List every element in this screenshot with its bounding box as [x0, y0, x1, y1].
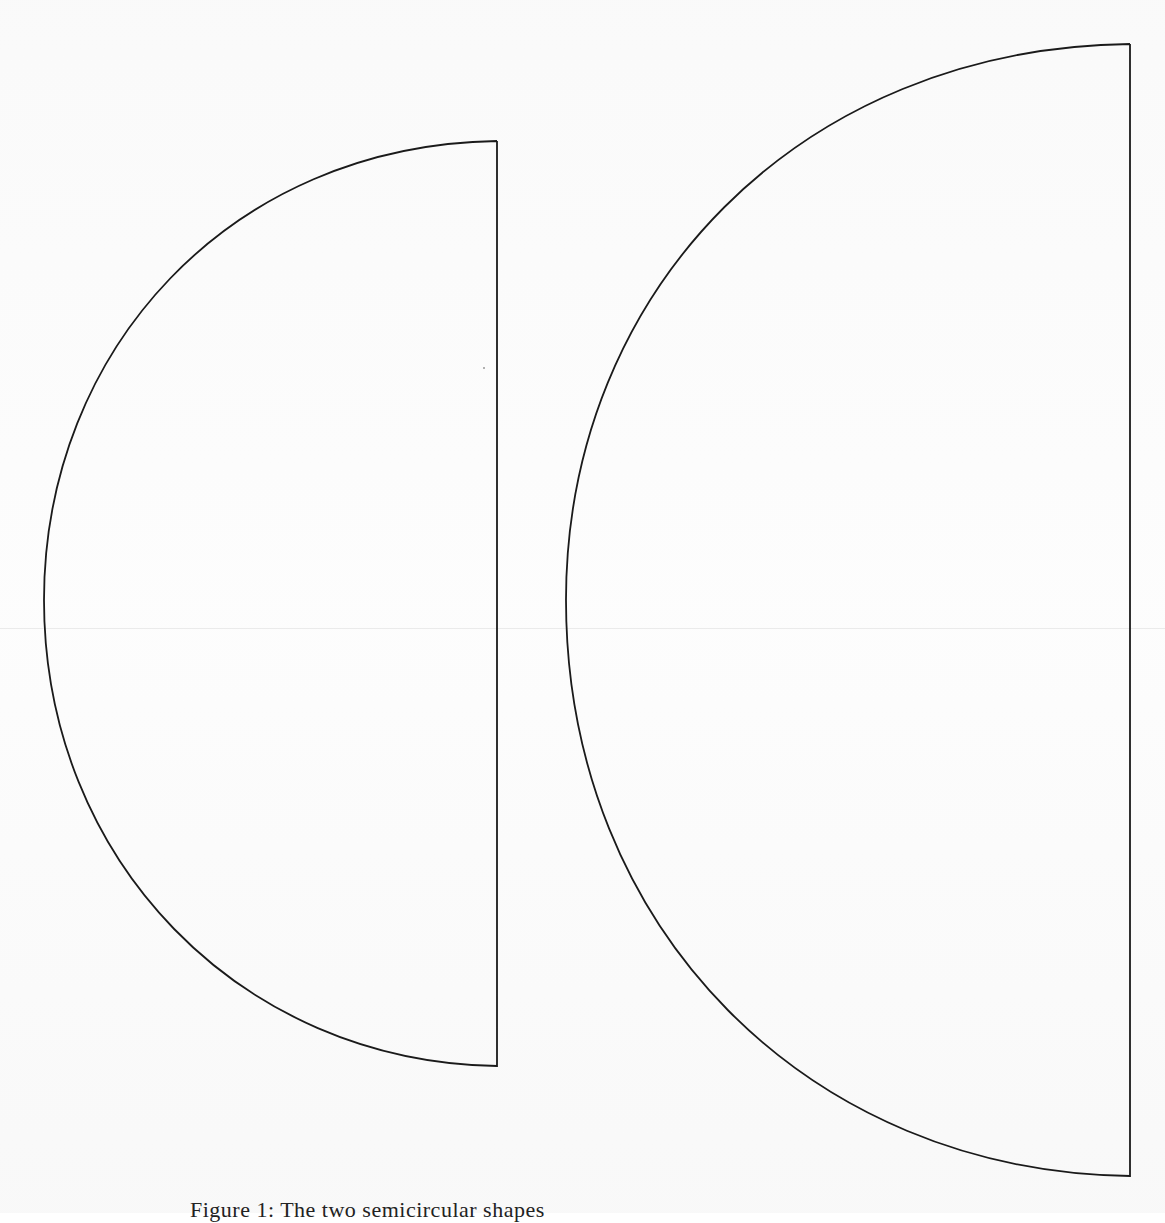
small-semicircle-shape [44, 141, 497, 1066]
figure-caption: Figure 1: The two semicircular shapes [190, 1197, 545, 1223]
large-semicircle-shape [566, 44, 1130, 1176]
scan-speck [483, 367, 485, 369]
